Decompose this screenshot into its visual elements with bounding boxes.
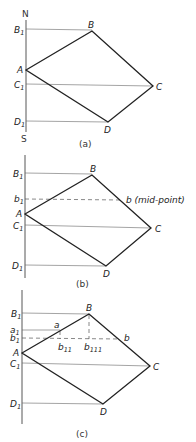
label-c: C [155,224,162,234]
label-b11: b11 [58,342,72,354]
label-b-point: b [124,333,130,343]
label-d1: D1 [12,261,23,273]
caption-a: (a) [79,139,92,149]
projection-c [26,84,153,86]
label-d: D [103,269,110,279]
label-d1: D1 [10,399,21,411]
label-b: B [90,164,96,174]
label-c1: C1 [13,221,23,233]
label-b: B [88,20,94,30]
label-b: B [86,303,92,313]
projection-d [22,403,103,404]
label-b-midpoint: b (mid-point) [126,195,185,205]
label-b1: B1 [14,25,24,37]
label-c: C [153,362,160,372]
traverse-diagram: N S B1 B A C1 C D1 D (a) B1 B b1 b (mid-… [0,0,196,442]
quadrilateral-abcd [22,314,150,404]
label-b1: B1 [11,309,21,321]
quadrilateral-abcd [26,31,153,122]
projection-b [26,29,92,30]
label-d: D [104,125,111,135]
label-d1: D1 [14,117,25,129]
projection-d [25,265,106,266]
label-c: C [156,82,163,92]
north-label: N [22,9,29,19]
label-a: A [16,65,23,75]
projection-b [25,173,92,174]
panel-c: B1 B a1 a b1 b b11 b111 A C1 C D1 D (c) [10,290,160,439]
label-c1: C1 [10,359,20,371]
label-d: D [100,407,107,417]
projection-b-lower [22,338,120,339]
quadrilateral-abcd [25,175,151,266]
projection-b [22,313,89,314]
label-b1: B1 [13,169,23,181]
projection-b-midpoint [25,199,122,200]
label-a: A [15,209,22,219]
caption-b: (b) [76,279,89,289]
label-a: A [12,348,19,358]
projection-d [26,121,108,122]
panel-a: N S B1 B A C1 C D1 D (a) [14,9,163,149]
label-a-point: a [54,320,60,330]
panel-b: B1 B b1 b (mid-point) A C1 C D1 D (b) [12,155,185,289]
south-label: S [21,134,27,144]
label-b1-mid: b1 [14,194,24,206]
caption-c: (c) [76,429,88,439]
label-c1: C1 [14,80,24,92]
label-b111: b111 [84,342,102,354]
